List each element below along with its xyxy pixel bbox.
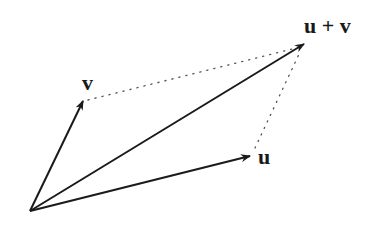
dotted-edge-u-to-sum bbox=[255, 52, 300, 148]
label-u: u bbox=[258, 144, 270, 169]
dotted-edge-v-to-sum bbox=[88, 47, 300, 100]
vector-u-arrow bbox=[30, 156, 250, 211]
vector-diagram: v u u + v bbox=[0, 0, 392, 228]
label-v: v bbox=[82, 70, 93, 95]
label-u-plus-v: u + v bbox=[304, 13, 351, 38]
